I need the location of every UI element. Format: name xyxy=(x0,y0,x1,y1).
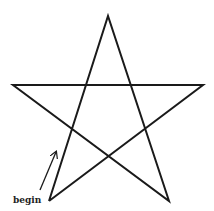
pentagram-star xyxy=(13,16,203,201)
begin-label: begin xyxy=(13,195,42,205)
pentagram-diagram: begin xyxy=(0,0,214,211)
